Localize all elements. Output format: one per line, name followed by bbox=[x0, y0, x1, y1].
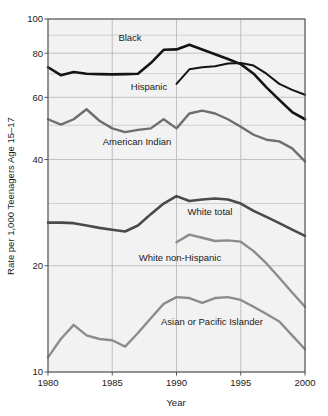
x-tick-label: 1990 bbox=[166, 377, 187, 388]
x-tick-label: 1995 bbox=[230, 377, 251, 388]
series-label-black: Black bbox=[118, 32, 141, 43]
series-label-white-total: White total bbox=[188, 206, 233, 217]
x-tick-label: 1980 bbox=[37, 377, 58, 388]
y-tick-label: 40 bbox=[32, 154, 43, 165]
y-tick-label: 60 bbox=[32, 92, 43, 103]
y-tick-label: 80 bbox=[32, 48, 43, 59]
line-chart: 100806040201019801985199019952000 Rate p… bbox=[0, 0, 328, 416]
y-tick-label: 10 bbox=[32, 366, 43, 377]
series-label-hispanic: Hispanic bbox=[131, 81, 168, 92]
series-label-white-non-hispanic: White non-Hispanic bbox=[139, 252, 222, 263]
x-tick-label: 1985 bbox=[102, 377, 123, 388]
y-axis-title: Rate per 1,000 Teenagers Age 15–17 bbox=[5, 117, 16, 275]
y-tick-label: 100 bbox=[27, 13, 43, 24]
y-tick-label: 20 bbox=[32, 260, 43, 271]
series-label-american-indian: American Indian bbox=[103, 136, 172, 147]
x-tick-label: 2000 bbox=[294, 377, 315, 388]
series-label-asian-or-pacific-islander: Asian or Pacific Islander bbox=[161, 316, 263, 327]
chart-container: 100806040201019801985199019952000 Rate p… bbox=[0, 0, 328, 416]
x-axis-title: Year bbox=[166, 397, 185, 408]
